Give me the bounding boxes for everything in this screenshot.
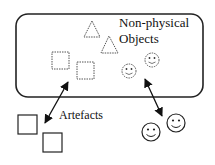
smiley-icon <box>167 114 185 132</box>
dashed-square-icon <box>77 62 94 79</box>
dashed-square-icon <box>52 52 69 69</box>
artefacts-label: Artefacts <box>59 108 103 122</box>
diagram-canvas: Non-physical Objects Artefacts <box>0 0 215 165</box>
group-label-line1: Non-physical <box>119 15 189 30</box>
group-label-line2: Objects <box>119 31 159 46</box>
dashed-smiley-icon <box>122 64 136 78</box>
triangle-icon <box>84 21 100 37</box>
smiley-icon <box>142 123 160 141</box>
square-icon <box>43 133 62 152</box>
square-icon <box>18 115 37 134</box>
triangle-icon <box>101 36 118 53</box>
dashed-smiley-icon <box>145 53 159 67</box>
